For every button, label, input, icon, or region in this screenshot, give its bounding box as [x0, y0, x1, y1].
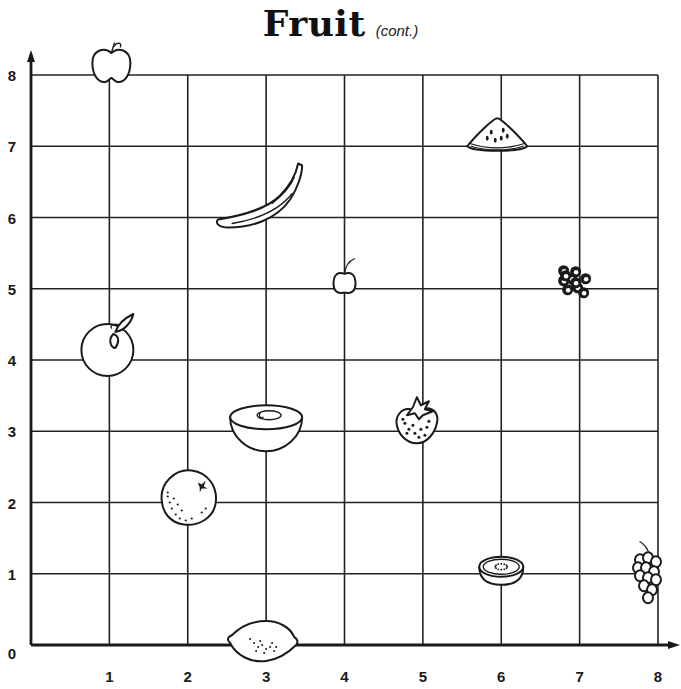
- y-tick-label: 6: [8, 210, 16, 227]
- kiwi-icon: kiwi half: [479, 557, 523, 585]
- y-tick-label: 7: [8, 138, 16, 155]
- x-tick-label: 2: [184, 668, 192, 685]
- y-tick-label: 8: [8, 67, 16, 84]
- x-tick-labels: 12345678: [105, 668, 662, 685]
- x-tick-label: 6: [497, 668, 505, 685]
- x-tick-label: 7: [575, 668, 583, 685]
- grapes-icon: grapes: [633, 542, 661, 604]
- lemon-icon: lemon: [228, 621, 297, 661]
- x-tick-label: 8: [654, 668, 662, 685]
- orange-icon: orange: [162, 470, 216, 524]
- y-tick-label: 1: [8, 566, 16, 583]
- x-tick-label: 4: [340, 668, 349, 685]
- fruit-markers: applewatermelon slicebananacherryblueber…: [81, 43, 661, 661]
- strawberry-icon: strawberry: [396, 397, 437, 443]
- x-tick-label: 1: [105, 668, 113, 685]
- y-tick-label: 3: [8, 423, 16, 440]
- apple-icon: apple: [92, 43, 130, 82]
- y-axis-arrow-icon: [27, 50, 35, 62]
- y-tick-labels: 012345678: [8, 67, 17, 662]
- x-tick-label: 3: [262, 668, 270, 685]
- y-tick-label: 4: [8, 352, 17, 369]
- blueberries-icon: blueberries: [558, 265, 591, 298]
- x-axis-arrow-icon: [668, 641, 680, 649]
- melon-icon: melon half: [230, 405, 302, 451]
- coordinate-grid: 12345678 012345678 applewatermelon slice…: [0, 0, 681, 689]
- y-tick-label: 5: [8, 281, 16, 298]
- y-tick-label: 2: [8, 495, 16, 512]
- watermelon-icon: watermelon slice: [467, 118, 527, 151]
- y-tick-label: 0: [8, 645, 16, 662]
- peach-icon: peach: [81, 314, 133, 376]
- x-tick-label: 5: [419, 668, 427, 685]
